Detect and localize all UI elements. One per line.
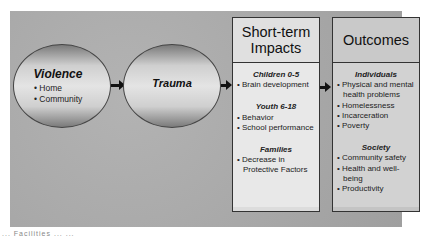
group-title-children: Children 0-5 <box>237 70 315 80</box>
trauma-title: Trauma <box>124 77 220 89</box>
list-item: Health and well-being <box>337 164 415 184</box>
violence-list: Home Community <box>34 83 82 105</box>
list-item: Physical and mental health problems <box>337 80 415 100</box>
youth-list: Behavior School performance <box>237 113 315 133</box>
families-list: Decrease in Protective Factors <box>237 155 315 175</box>
group-title-families: Families <box>237 145 315 155</box>
children-list: Brain development <box>237 80 315 90</box>
short-term-impacts-box: Short-term Impacts Children 0-5 Brain de… <box>232 17 320 212</box>
list-item: School performance <box>237 123 315 133</box>
figure-caption: ... Facilities ... ... <box>2 230 75 237</box>
group-title-individuals: Individuals <box>337 70 415 80</box>
outcomes-header: Outcomes <box>333 18 419 63</box>
list-item: Brain development <box>237 80 315 90</box>
outcomes-body: Individuals Physical and mental health p… <box>333 63 419 207</box>
arrow-trauma-to-impacts-icon <box>221 84 228 87</box>
list-item: Behavior <box>237 113 315 123</box>
arrow-violence-to-trauma-icon <box>111 84 121 87</box>
short-term-impacts-body: Children 0-5 Brain development Youth 6-1… <box>233 63 319 207</box>
violence-circle: Violence Home Community <box>13 44 111 128</box>
violence-item-home: Home <box>34 83 82 94</box>
arrow-impacts-to-outcomes-icon <box>320 86 327 89</box>
outcomes-box: Outcomes Individuals Physical and mental… <box>332 17 420 212</box>
violence-item-community: Community <box>34 94 82 105</box>
list-item: Incarceration <box>337 111 415 121</box>
list-item: Poverty <box>337 121 415 131</box>
group-title-youth: Youth 6-18 <box>237 102 315 112</box>
list-item: Homelessness <box>337 101 415 111</box>
list-item: Decrease in Protective Factors <box>237 155 315 175</box>
individuals-list: Physical and mental health problems Home… <box>337 80 415 131</box>
list-item: Productivity <box>337 184 415 194</box>
short-term-impacts-header: Short-term Impacts <box>233 18 319 63</box>
list-item: Community safety <box>337 153 415 163</box>
short-term-title-line2: Impacts <box>242 40 311 56</box>
violence-title: Violence <box>10 67 106 81</box>
trauma-circle: Trauma <box>123 44 221 128</box>
group-title-society: Society <box>337 143 415 153</box>
short-term-title-line1: Short-term <box>242 24 311 40</box>
society-list: Community safety Health and well-being P… <box>337 153 415 194</box>
